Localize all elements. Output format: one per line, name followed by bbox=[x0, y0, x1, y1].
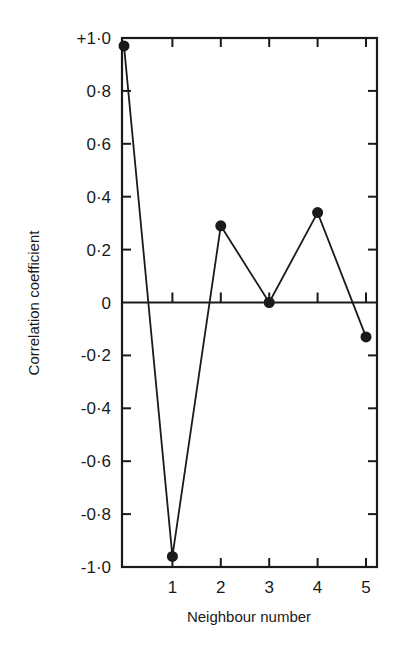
y-tick-label: -0·4 bbox=[81, 399, 111, 418]
correlation-chart: +1·00·80·60·40·20-0·2-0·4-0·6-0·8-1·0 12… bbox=[0, 0, 395, 663]
data-point-marker bbox=[264, 297, 275, 308]
y-tick-label: -0·6 bbox=[81, 452, 111, 471]
y-tick-label: -1·0 bbox=[81, 558, 111, 577]
y-axis-title: Correlation coefficient bbox=[25, 230, 42, 376]
series-line bbox=[124, 46, 366, 556]
y-tick-label: 0·2 bbox=[86, 241, 111, 260]
y-tick-label: 0 bbox=[102, 294, 111, 313]
y-tick-label: +1·0 bbox=[77, 29, 112, 48]
data-point-marker bbox=[312, 207, 323, 218]
x-tick-label: 2 bbox=[216, 578, 225, 597]
y-tick-label: -0·2 bbox=[81, 346, 111, 365]
y-tick-label: 0·8 bbox=[86, 82, 111, 101]
data-series bbox=[119, 40, 372, 561]
x-tick-label: 4 bbox=[313, 578, 322, 597]
y-tick-label: 0·4 bbox=[86, 188, 111, 207]
data-point-marker bbox=[119, 40, 130, 51]
y-tick-label: 0·6 bbox=[86, 135, 111, 154]
x-axis-title: Neighbour number bbox=[187, 608, 311, 625]
data-point-marker bbox=[215, 220, 226, 231]
x-tick-label: 5 bbox=[361, 578, 370, 597]
y-tick-label: -0·8 bbox=[81, 505, 111, 524]
data-point-marker bbox=[167, 551, 178, 562]
chart-canvas: +1·00·80·60·40·20-0·2-0·4-0·6-0·8-1·0 12… bbox=[0, 0, 395, 663]
x-axis-ticks: 12345 bbox=[168, 38, 371, 597]
x-tick-label: 1 bbox=[168, 578, 177, 597]
x-tick-label: 3 bbox=[264, 578, 273, 597]
data-point-marker bbox=[361, 331, 372, 342]
